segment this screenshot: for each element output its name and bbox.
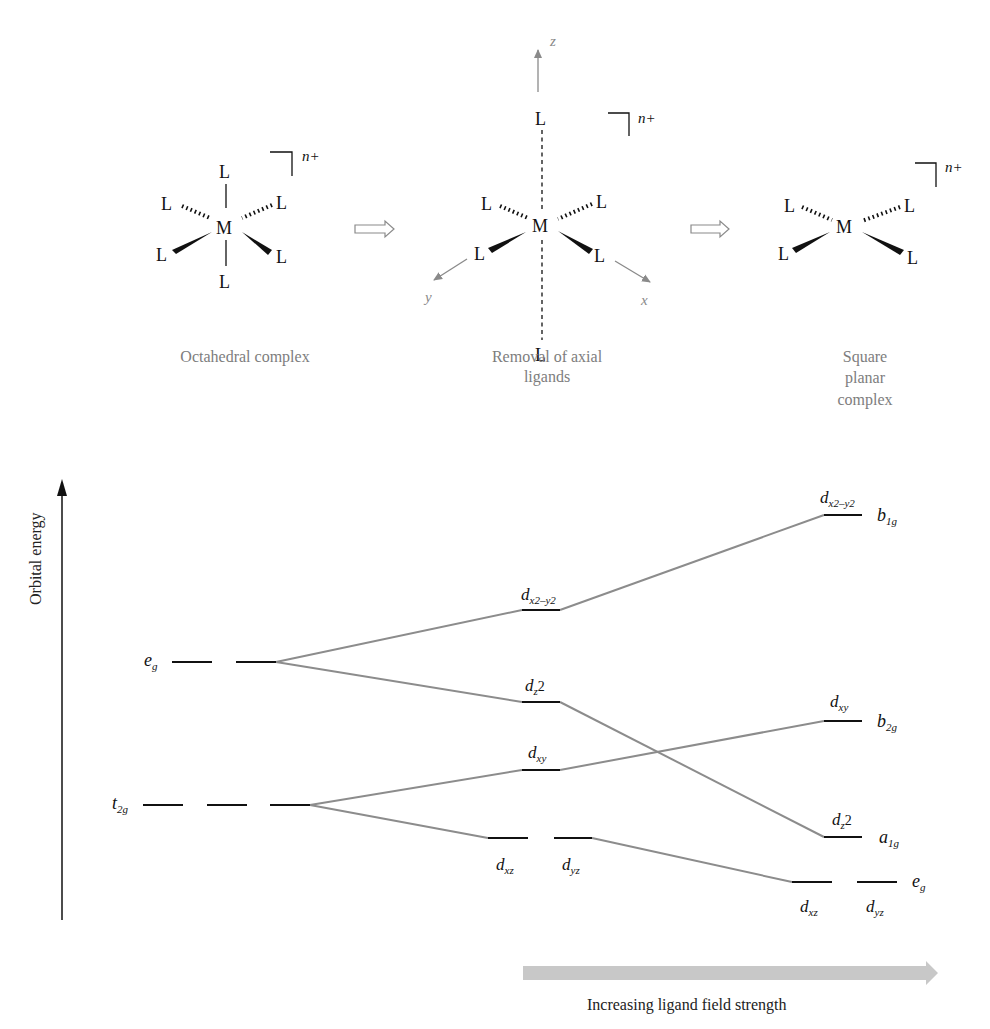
square-planar-levels: dx2–y2 b1g dxy b2g dz2 a1g dxz dyz eg [792,488,926,918]
ligand-back-right: L [596,192,607,212]
x-axis-label: x [640,292,648,308]
dxz-label: dxz [800,897,818,918]
dx2y2-label: dx2–y2 [521,585,556,606]
octahedral-structure: L M L L L L L n+ Octahedral complex [156,148,320,366]
arrow-up-icon [57,479,67,496]
b2g-label: b2g [877,711,898,733]
eg-label: eg [912,871,926,893]
hashed-bond-back-right [862,207,900,221]
bracket [915,163,936,187]
crystal-field-diagram: L M L L L L L n+ Octahedral complex z L … [0,0,990,1029]
ligand-top: L [219,162,230,182]
hashed-bond-back-left [500,206,528,218]
dyz-label: dyz [866,897,884,918]
intermediate-levels: dx2–y2 dz2 dxy dxz dyz [488,585,592,876]
hashed-bond-back-right [558,204,592,219]
caption-square-line1: Square [843,348,887,366]
wedge-bond-front-right [242,232,272,255]
ligand-back-right: L [276,193,287,213]
caption-removal-line1: Removal of axial [492,348,603,365]
hashed-bond-back-right [242,205,272,218]
y-axis-label: y [423,289,432,305]
ligand-back-left: L [784,196,795,216]
ligand-bottom: L [219,272,230,292]
eg-label: eg [144,650,158,672]
square-planar-structure: M L L L L n+ Square planar complex [778,159,963,409]
x-axis-arrow [615,261,650,282]
ligand-back-left: L [161,194,172,214]
hashed-bond-back-left [802,207,832,220]
metal-atom: M [532,216,548,236]
t2g-label: t2g [112,793,129,815]
energy-axis: Orbital energy [27,479,67,920]
z-axis-label: z [549,33,556,49]
a1g-label: a1g [879,827,900,849]
caption-octahedral: Octahedral complex [180,348,309,366]
octahedral-levels: eg t2g [112,650,310,815]
diagram-canvas: L M L L L L L n+ Octahedral complex z L … [0,0,990,1029]
dx2y2-label: dx2–y2 [820,488,855,509]
dxz-label: dxz [496,855,514,876]
dyz-label: dyz [562,855,580,876]
dxy-label: dxy [528,743,546,764]
hollow-right-arrow-icon [691,221,729,237]
wedge-bond-front-left [172,232,212,254]
wedge-bond-front-left [488,232,526,253]
ligand-front-left: L [474,244,485,264]
metal-atom: M [216,218,232,238]
dz2-label: dz2 [525,676,545,697]
ligand-front-right: L [907,248,918,268]
axial-removal-structure: z L M L L L L L y x n+ Removal of axial … [423,33,656,386]
charge-label: n+ [638,110,656,126]
y-axis-label: Orbital energy [27,512,45,605]
dxy-label: dxy [830,692,848,713]
y-axis-arrow [434,259,467,280]
correlation-lines [276,515,824,882]
ligand-top-axial: L [535,109,546,129]
ligand-front-right: L [276,247,287,267]
caption-removal-line2: ligands [524,368,570,386]
wedge-bond-front-right [558,231,593,254]
bracket [270,152,292,176]
hashed-bond-back-left [182,206,210,218]
bracket [608,113,629,136]
field-strength-arrow-icon [523,961,938,985]
ligand-front-left: L [156,245,167,265]
ligand-back-right: L [904,196,915,216]
ligand-front-right: L [594,246,605,266]
wedge-bond-front-right [862,232,904,255]
metal-atom: M [836,217,852,237]
dz2-label: dz2 [832,810,852,831]
x-axis-label: Increasing ligand field strength [587,996,787,1014]
hollow-right-arrow-icon [355,221,394,237]
ligand-back-left: L [481,194,492,214]
caption-square-line2: planar [845,369,886,387]
b1g-label: b1g [877,505,898,527]
wedge-bond-front-left [792,232,830,253]
charge-label: n+ [302,148,320,164]
charge-label: n+ [945,159,963,175]
ligand-front-left: L [778,244,789,264]
caption-square-line3: complex [837,391,892,409]
